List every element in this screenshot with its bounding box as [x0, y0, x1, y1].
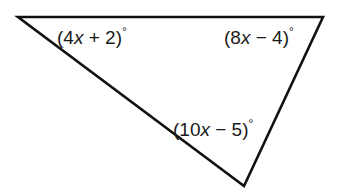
- triangle-diagram: (4x + 2)° (8x − 4)° (10x − 5)°: [0, 0, 337, 196]
- degree-symbol: °: [249, 117, 254, 131]
- angle-label-top-left: (4x + 2)°: [57, 25, 127, 48]
- expression-rest: + 2): [83, 27, 122, 48]
- angle-label-bottom: (10x − 5)°: [173, 117, 254, 140]
- angle-label-top-right: (8x − 4)°: [224, 25, 294, 48]
- expression-rest: − 4): [250, 27, 289, 48]
- degree-symbol: °: [289, 25, 294, 39]
- degree-symbol: °: [122, 25, 127, 39]
- expression-rest: − 5): [210, 119, 249, 140]
- coefficient: 8: [230, 27, 241, 48]
- coefficient: 4: [63, 27, 74, 48]
- coefficient: 10: [179, 119, 200, 140]
